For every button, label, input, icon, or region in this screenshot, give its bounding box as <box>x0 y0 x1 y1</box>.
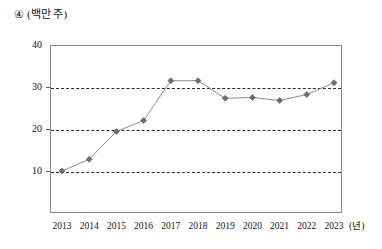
y-tick-label-30: 30 <box>32 82 42 92</box>
x-axis-unit-label: (년) <box>349 221 364 231</box>
plot-area <box>50 45 342 213</box>
gridline-30 <box>51 88 341 89</box>
x-tick-label-2016: 2016 <box>134 221 153 231</box>
x-tick-label-2022: 2022 <box>297 221 316 231</box>
y-tick-label-10: 10 <box>32 166 42 176</box>
chart-page: ④(백만 주) 10203040 20132014201520162017201… <box>0 0 382 249</box>
gridline-20 <box>51 130 341 131</box>
x-tick-label-2015: 2015 <box>107 221 126 231</box>
y-tick-mark-30 <box>46 87 51 88</box>
x-tick-label-2019: 2019 <box>216 221 235 231</box>
y-tick-label-20: 20 <box>32 124 42 134</box>
y-tick-label-40: 40 <box>32 40 42 50</box>
x-tick-label-2020: 2020 <box>243 221 262 231</box>
x-tick-label-2013: 2013 <box>53 221 72 231</box>
x-tick-label-2023: 2023 <box>325 221 344 231</box>
x-tick-label-2018: 2018 <box>189 221 208 231</box>
y-axis: 10203040 <box>0 0 50 249</box>
y-tick-mark-20 <box>46 129 51 130</box>
x-tick-label-2017: 2017 <box>161 221 180 231</box>
x-tick-label-2021: 2021 <box>270 221 289 231</box>
gridline-10 <box>51 172 341 173</box>
y-tick-mark-10 <box>46 171 51 172</box>
x-tick-label-2014: 2014 <box>80 221 99 231</box>
